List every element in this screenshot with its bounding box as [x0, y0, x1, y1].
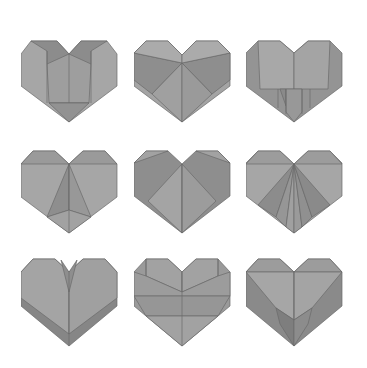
- origami-heart-r1c1: [21, 24, 121, 124]
- heart-v-notch-icon: [21, 248, 121, 348]
- heart-center-spike-icon: [21, 137, 121, 237]
- origami-heart-r2c2: [134, 137, 234, 237]
- origami-heart-r2c1: [21, 137, 121, 237]
- heart-square-panel-icon: [246, 24, 346, 124]
- origami-heart-r3c1: [21, 248, 121, 348]
- origami-heart-r1c3: [246, 24, 346, 124]
- heart-center-pocket-icon: [21, 24, 121, 124]
- heart-diamond-front-icon: [134, 137, 234, 237]
- heart-diagonal-cross-icon: [134, 24, 234, 124]
- origami-heart-r2c3: [246, 137, 346, 237]
- origami-heart-r3c3: [246, 248, 346, 348]
- origami-heart-r1c2: [134, 24, 234, 124]
- origami-heart-r3c2: [134, 248, 234, 348]
- heart-horizontal-bands-icon: [134, 248, 234, 348]
- heart-inverted-v-pocket-icon: [246, 248, 346, 348]
- heart-radiating-pleats-icon: [246, 137, 346, 237]
